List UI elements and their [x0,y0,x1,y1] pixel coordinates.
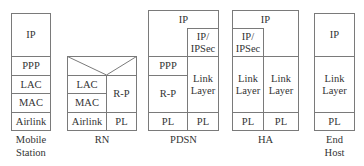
pdsn-link-line2: Layer [191,85,215,97]
rn-airlink-text: Airlink [72,116,102,128]
eh-link-line1: Link [322,73,346,85]
pdsn-pl-left-text: PL [162,116,174,128]
eh-link-line2: Layer [322,85,346,97]
ha-pl-right-layer: PL [263,112,299,131]
rn-airlink-layer: Airlink [67,112,107,131]
rn-relay-v-icon [67,56,137,76]
ha-ipsec-line2: IPSec [236,43,261,55]
ha-ipsec-layer: IP/IPSec [232,28,264,57]
rn-mac-layer: MAC [67,93,107,113]
eh-label: End Host [308,133,361,159]
eh-pl-text: PL [328,116,340,128]
pdsn-ppp-layer: PPP [148,56,188,76]
ms-label-line1: Mobile [4,133,58,146]
ms-lac-text: LAC [21,79,42,91]
eh-ip-text: IP [330,29,339,41]
ha-ipsec-line1: IP/ [236,31,261,43]
ha-link-left-layer: LinkLayer [232,56,264,113]
ms-ip-layer: IP [11,13,51,57]
rn-label: RN [67,133,137,146]
eh-label-line2: Host [308,146,361,159]
ms-airlink-text: Airlink [16,116,46,128]
ms-ppp-text: PPP [22,60,40,72]
ms-airlink-layer: Airlink [11,112,51,131]
pdsn-ipsec-line2: IPSec [191,43,216,55]
ha-link-right-layer: LinkLayer [263,56,299,113]
ms-ppp-layer: PPP [11,56,51,76]
ha-link-right-line2: Layer [269,85,293,97]
ha-ip-text: IP [261,14,270,26]
ha-link-left-line1: Link [236,73,260,85]
pdsn-rp-text: R-P [160,88,176,100]
rn-pl-text: PL [115,116,127,128]
rn-lac-text: LAC [77,79,98,91]
ha-pl-left-layer: PL [232,112,264,131]
ms-label: Mobile Station [4,133,58,159]
pdsn-pl-left-layer: PL [148,112,188,131]
ms-lac-layer: LAC [11,75,51,94]
rn-lac-layer: LAC [67,75,107,94]
rn-rp-text: R-P [113,88,129,100]
ms-mac-text: MAC [19,97,43,109]
pdsn-rp-layer: R-P [148,75,188,113]
ha-pl-right-text: PL [275,116,287,128]
pdsn-link-line1: Link [191,73,215,85]
ms-ip-text: IP [26,29,35,41]
ha-pl-left-text: PL [242,116,254,128]
pdsn-ipsec-layer: IP/IPSec [187,28,219,57]
rn-rp-layer: R-P [106,75,137,113]
eh-link-layer: LinkLayer [314,56,355,113]
eh-label-line1: End [308,133,361,146]
pdsn-pl-right-layer: PL [187,112,219,131]
ha-link-left-line2: Layer [236,85,260,97]
ha-link-right-line1: Link [269,73,293,85]
pdsn-ppp-text: PPP [159,60,177,72]
pdsn-ip-text: IP [179,14,188,26]
rn-pl-layer: PL [106,112,137,131]
rn-mac-text: MAC [75,97,99,109]
pdsn-label: PDSN [148,133,219,146]
ha-label: HA [232,133,299,146]
pdsn-pl-right-text: PL [197,116,209,128]
pdsn-ipsec-line1: IP/ [191,31,216,43]
ms-mac-layer: MAC [11,93,51,113]
ms-label-line2: Station [4,146,58,159]
eh-pl-layer: PL [314,112,355,131]
eh-ip-layer: IP [314,13,355,57]
pdsn-link-layer: LinkLayer [187,56,219,113]
